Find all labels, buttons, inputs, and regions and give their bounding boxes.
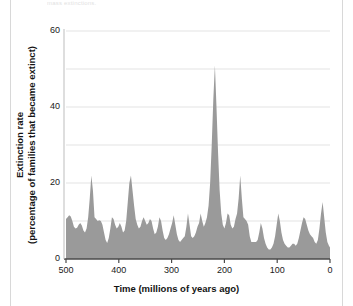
y-tick-label: 20 (36, 177, 60, 187)
grid-lines (66, 31, 330, 221)
extinction-rate-figure: mass extinctions. Extinction rate (perce… (0, 0, 353, 306)
axis-lines (64, 29, 330, 259)
x-axis-title: Time (millions of years ago) (0, 283, 353, 294)
x-tick-label: 400 (104, 265, 134, 275)
x-tick-label: 500 (51, 265, 81, 275)
x-tick-label: 300 (157, 265, 187, 275)
y-tick-label: 40 (36, 101, 60, 111)
y-tick-label: 0 (36, 253, 60, 263)
extinction-rate-area (66, 65, 330, 259)
y-tick-label: 60 (36, 25, 60, 35)
x-tick-label: 0 (315, 265, 345, 275)
x-tick-label: 100 (262, 265, 292, 275)
x-tick-label: 200 (209, 265, 239, 275)
